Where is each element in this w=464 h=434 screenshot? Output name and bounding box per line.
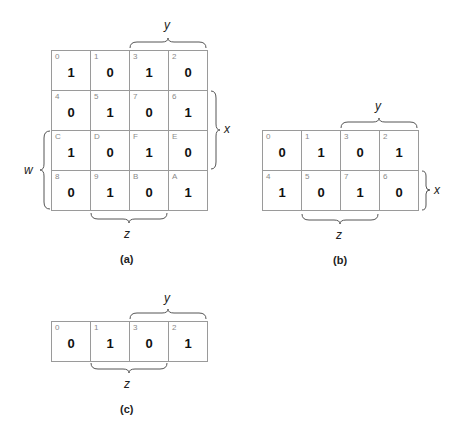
cell-index: 3 bbox=[133, 52, 137, 61]
cell-value: 1 bbox=[169, 185, 207, 200]
kmap-cell: A1 bbox=[169, 171, 208, 211]
cell-value: 1 bbox=[52, 65, 90, 80]
cell-index: 8 bbox=[55, 172, 59, 181]
caption-a: (a) bbox=[120, 253, 133, 265]
cell-value: 1 bbox=[91, 185, 129, 200]
kmap-cell: B0 bbox=[130, 171, 169, 211]
caption-c: (c) bbox=[120, 403, 133, 415]
cell-index: F bbox=[133, 132, 138, 141]
cell-value: 0 bbox=[52, 105, 90, 120]
brace-y-c bbox=[129, 309, 207, 321]
cell-index: C bbox=[55, 132, 61, 141]
kmap-cell: 31 bbox=[130, 51, 169, 91]
kmap-cell: 21 bbox=[169, 322, 208, 362]
cell-value: 1 bbox=[341, 185, 379, 200]
cell-index: 6 bbox=[172, 92, 176, 101]
brace-z-b bbox=[301, 213, 379, 225]
cell-index: 6 bbox=[383, 172, 387, 181]
caption-b: (b) bbox=[333, 254, 347, 266]
kmap-cell: 50 bbox=[302, 171, 341, 211]
cell-index: 5 bbox=[94, 92, 98, 101]
label-x-a: x bbox=[224, 122, 230, 136]
label-y-a: y bbox=[164, 18, 170, 32]
kmap-a: 01 10 31 20 40 51 70 61 C1 D0 F1 E0 80 9… bbox=[51, 50, 208, 211]
kmap-cell: 30 bbox=[130, 322, 169, 362]
kmap-cell: 30 bbox=[341, 131, 380, 171]
cell-index: 1 bbox=[94, 52, 98, 61]
cell-index: 3 bbox=[133, 323, 137, 332]
cell-value: 0 bbox=[380, 185, 418, 200]
cell-value: 0 bbox=[302, 185, 340, 200]
cell-index: 2 bbox=[383, 132, 387, 141]
brace-x-b bbox=[421, 170, 433, 211]
label-z-c: z bbox=[124, 377, 130, 391]
kmap-cell: 00 bbox=[52, 322, 91, 362]
cell-value: 1 bbox=[130, 145, 168, 160]
kmap-c: 00 11 30 21 bbox=[51, 321, 208, 362]
cell-index: E bbox=[172, 132, 177, 141]
cell-index: 4 bbox=[266, 172, 270, 181]
kmap-cell: 61 bbox=[169, 91, 208, 131]
cell-index: 0 bbox=[266, 132, 270, 141]
cell-value: 0 bbox=[52, 185, 90, 200]
cell-value: 1 bbox=[52, 145, 90, 160]
cell-index: 1 bbox=[94, 323, 98, 332]
cell-index: 9 bbox=[94, 172, 98, 181]
cell-value: 1 bbox=[380, 145, 418, 160]
label-w-a: w bbox=[24, 163, 33, 177]
cell-value: 0 bbox=[130, 185, 168, 200]
kmap-cell: 11 bbox=[302, 131, 341, 171]
cell-value: 1 bbox=[302, 145, 340, 160]
cell-index: D bbox=[94, 132, 100, 141]
brace-y-b bbox=[340, 118, 418, 130]
label-z-a: z bbox=[124, 227, 130, 241]
kmap-cell: 10 bbox=[91, 51, 130, 91]
cell-value: 0 bbox=[91, 65, 129, 80]
label-y-b: y bbox=[375, 99, 381, 113]
kmap-cell: 51 bbox=[91, 91, 130, 131]
cell-value: 1 bbox=[169, 105, 207, 120]
kmap-cell: 91 bbox=[91, 171, 130, 211]
cell-index: 5 bbox=[305, 172, 309, 181]
cell-index: 3 bbox=[344, 132, 348, 141]
kmap-cell: 41 bbox=[263, 171, 302, 211]
cell-value: 0 bbox=[130, 105, 168, 120]
cell-value: 1 bbox=[130, 65, 168, 80]
cell-value: 0 bbox=[91, 145, 129, 160]
kmap-b: 00 11 30 21 41 50 71 60 bbox=[262, 130, 419, 211]
cell-value: 0 bbox=[169, 65, 207, 80]
cell-value: 1 bbox=[91, 105, 129, 120]
label-y-c: y bbox=[164, 291, 170, 305]
label-x-b: x bbox=[434, 183, 440, 197]
cell-index: 1 bbox=[305, 132, 309, 141]
kmap-cell: C1 bbox=[52, 131, 91, 171]
brace-y-a bbox=[129, 38, 207, 50]
kmap-cell: 01 bbox=[52, 51, 91, 91]
cell-index: 2 bbox=[172, 323, 176, 332]
brace-x-a bbox=[210, 90, 222, 170]
cell-index: 2 bbox=[172, 52, 176, 61]
kmap-cell: 70 bbox=[130, 91, 169, 131]
kmap-cell: F1 bbox=[130, 131, 169, 171]
kmap-cell: D0 bbox=[91, 131, 130, 171]
cell-value: 1 bbox=[169, 336, 207, 351]
cell-index: 0 bbox=[55, 52, 59, 61]
kmap-cell: 20 bbox=[169, 51, 208, 91]
cell-value: 1 bbox=[91, 336, 129, 351]
cell-index: A bbox=[172, 172, 177, 181]
kmap-cell: 21 bbox=[380, 131, 419, 171]
cell-value: 0 bbox=[169, 145, 207, 160]
cell-value: 0 bbox=[341, 145, 379, 160]
brace-w-a bbox=[39, 130, 51, 210]
brace-z-c bbox=[90, 362, 168, 374]
brace-z-a bbox=[90, 212, 168, 224]
kmap-cell: 71 bbox=[341, 171, 380, 211]
kmap-cell: 11 bbox=[91, 322, 130, 362]
cell-value: 0 bbox=[263, 145, 301, 160]
kmap-cell: E0 bbox=[169, 131, 208, 171]
cell-index: 0 bbox=[55, 323, 59, 332]
cell-index: 4 bbox=[55, 92, 59, 101]
cell-index: 7 bbox=[344, 172, 348, 181]
kmap-cell: 80 bbox=[52, 171, 91, 211]
kmap-cell: 00 bbox=[263, 131, 302, 171]
